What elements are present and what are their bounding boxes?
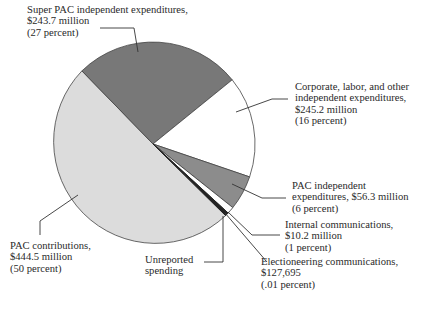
label-unreported: Unreported spending: [145, 254, 193, 277]
label-pac-independent: PAC independent expenditures, $56.3 mill…: [292, 180, 409, 214]
label-super-pac: Super PAC independent expenditures, $243…: [27, 4, 188, 38]
leader-internal: [228, 212, 280, 235]
leader-electioneering: [225, 213, 267, 262]
label-pac-contributions: PAC contributions, $444.5 million (50 pe…: [10, 240, 91, 274]
label-corporate: Corporate, labor, and other independent …: [295, 81, 409, 127]
label-internal-communications: Internal communications, $10.2 million (…: [285, 219, 393, 253]
label-electioneering: Electioneering communications, $127,695 …: [261, 256, 398, 290]
leader-pac-contributions: [40, 195, 78, 235]
